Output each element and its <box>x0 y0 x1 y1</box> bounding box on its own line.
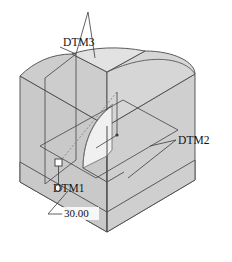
dtm1-label: DTM1 <box>53 182 85 194</box>
dtm2-label: DTM2 <box>178 134 210 146</box>
dimension-value: 30.00 <box>64 207 89 219</box>
dtm3-leader-tail <box>60 47 76 54</box>
datum-origin-circle <box>115 133 118 136</box>
drawing-canvas: DTM3 DTM2 DTM1 30.00 <box>0 0 232 262</box>
isometric-drawing: DTM3 DTM2 DTM1 30.00 <box>0 0 232 262</box>
datum-target-square <box>55 159 62 166</box>
dtm3-label: DTM3 <box>63 36 95 48</box>
solid-body <box>20 48 195 232</box>
